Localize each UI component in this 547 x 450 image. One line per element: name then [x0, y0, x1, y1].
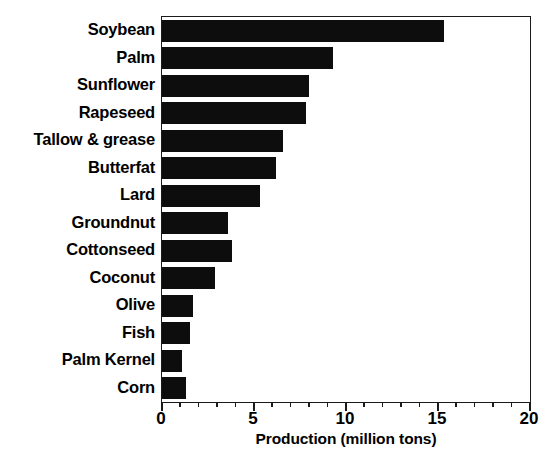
- category-label: Palm Kernel: [0, 351, 155, 368]
- category-label: Olive: [0, 296, 155, 313]
- x-axis-tick-label: 20: [520, 410, 539, 427]
- category-label: Tallow & grease: [0, 131, 155, 148]
- x-axis-minor-tick: [474, 403, 476, 407]
- bar: [162, 322, 190, 344]
- x-axis-minor-tick: [419, 403, 421, 407]
- x-axis-minor-tick: [271, 403, 273, 407]
- x-axis-minor-tick: [290, 403, 292, 407]
- category-label: Corn: [0, 379, 155, 396]
- category-label: Butterfat: [0, 159, 155, 176]
- bar: [162, 295, 193, 317]
- x-axis-minor-tick: [216, 403, 218, 407]
- x-axis-minor-tick: [363, 403, 365, 407]
- bar: [162, 350, 182, 372]
- bar: [162, 212, 228, 234]
- x-axis-minor-tick: [492, 403, 494, 407]
- category-label: Soybean: [0, 21, 155, 38]
- bar: [162, 185, 260, 207]
- x-axis-minor-tick: [382, 403, 384, 407]
- x-axis-minor-tick: [198, 403, 200, 407]
- category-axis-labels: SoybeanPalmSunflowerRapeseedTallow & gre…: [0, 16, 155, 403]
- bar: [162, 20, 444, 42]
- category-label: Sunflower: [0, 76, 155, 93]
- bar: [162, 157, 276, 179]
- bar: [162, 102, 306, 124]
- x-axis-minor-tick: [327, 403, 329, 407]
- x-axis-minor-tick: [511, 403, 513, 407]
- x-axis-minor-tick: [400, 403, 402, 407]
- category-label: Fish: [0, 324, 155, 341]
- x-axis-tick-label: 0: [156, 410, 165, 427]
- x-axis-tick-label: 5: [248, 410, 257, 427]
- x-axis-tick-label: 15: [428, 410, 447, 427]
- bar: [162, 267, 215, 289]
- bar: [162, 47, 333, 69]
- x-axis-minor-tick: [308, 403, 310, 407]
- bar: [162, 377, 186, 399]
- category-label: Palm: [0, 49, 155, 66]
- category-label: Lard: [0, 186, 155, 203]
- x-axis-minor-tick: [235, 403, 237, 407]
- x-axis-title: Production (million tons): [161, 431, 531, 447]
- bars-layer: [162, 17, 530, 402]
- bar: [162, 240, 232, 262]
- category-label: Rapeseed: [0, 104, 155, 121]
- bar-chart-figure: SoybeanPalmSunflowerRapeseedTallow & gre…: [0, 0, 547, 450]
- category-label: Coconut: [0, 269, 155, 286]
- x-axis-minor-tick: [179, 403, 181, 407]
- category-label: Groundnut: [0, 214, 155, 231]
- category-label: Cottonseed: [0, 241, 155, 258]
- x-axis-minor-tick: [455, 403, 457, 407]
- bar: [162, 75, 309, 97]
- x-axis-tick-label: 10: [336, 410, 355, 427]
- bar: [162, 130, 283, 152]
